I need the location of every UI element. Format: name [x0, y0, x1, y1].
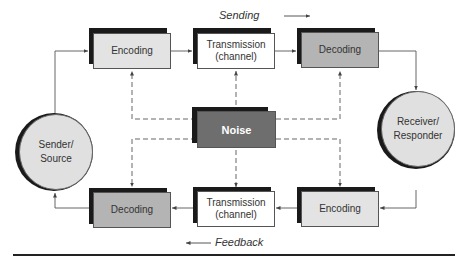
- sending-label: Sending: [219, 9, 259, 21]
- noise-box: Noise: [197, 111, 276, 148]
- transmission-top-sublabel: (channel): [215, 51, 257, 63]
- transmission-bottom-box: Transmission (channel): [197, 191, 275, 227]
- sender-sublabel: Source: [40, 152, 72, 166]
- decoding-top-label: Decoding: [319, 44, 361, 56]
- sender-label: Sender/: [38, 138, 73, 152]
- encoding-bottom-label: Encoding: [319, 203, 361, 215]
- transmission-bottom-sublabel: (channel): [215, 209, 257, 221]
- noise-to-encoding-bottom: [276, 139, 340, 187]
- edge-decoding-to-receiver: [379, 51, 416, 90]
- receiver-sublabel: Responder: [394, 129, 443, 143]
- encoding-top-box: Encoding: [93, 33, 171, 69]
- encoding-top-label: Encoding: [111, 45, 153, 57]
- feedback-label: Feedback: [215, 236, 263, 248]
- noise-to-decoding-bottom: [132, 139, 196, 187]
- transmission-bottom-label: Transmission: [206, 197, 265, 209]
- noise-label: Noise: [222, 124, 252, 136]
- receiver-circle: Receiver/ Responder: [381, 91, 455, 167]
- transmission-top-label: Transmission: [206, 39, 265, 51]
- encoding-bottom-box: Encoding: [301, 191, 379, 227]
- decoding-top-box: Decoding: [301, 32, 379, 68]
- decoding-bottom-label: Decoding: [111, 204, 153, 216]
- edge-receiver-to-encoding: [380, 190, 416, 208]
- noise-to-encoding-top: [132, 71, 196, 119]
- edge-sender-to-encoding: [55, 51, 88, 113]
- edge-decoding-to-sender: [55, 193, 89, 208]
- sender-circle: Sender/ Source: [19, 114, 93, 190]
- transmission-top-box: Transmission (channel): [197, 33, 275, 69]
- receiver-label: Receiver/: [397, 115, 439, 129]
- decoding-bottom-box: Decoding: [93, 192, 171, 228]
- noise-to-decoding-top: [276, 71, 340, 119]
